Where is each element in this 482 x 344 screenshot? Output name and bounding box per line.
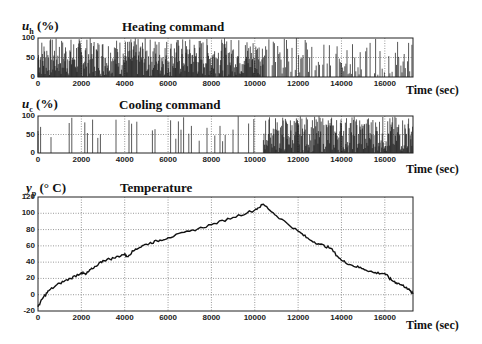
tick-label: 8000 <box>203 79 221 88</box>
tick-label: 14000 <box>330 313 352 322</box>
tick-label: 12000 <box>287 313 309 322</box>
tick-label: 16000 <box>374 155 396 164</box>
tick-label: 4000 <box>116 313 134 322</box>
tick-label: 100 <box>22 208 35 217</box>
tick-label: 10000 <box>244 79 266 88</box>
tick-label: 14000 <box>330 155 352 164</box>
tick-label: 2000 <box>72 155 90 164</box>
tick-label: 12000 <box>287 79 309 88</box>
plots-canvas <box>0 0 482 344</box>
tick-label: 0 <box>31 72 35 81</box>
tick-label: 6000 <box>159 313 177 322</box>
tick-label: 8000 <box>203 155 221 164</box>
figure: uh (%) Heating command uc (%) Cooling co… <box>0 0 482 344</box>
tick-label: 16000 <box>374 313 396 322</box>
tick-label: 2000 <box>72 313 90 322</box>
tick-label: 80 <box>26 225 35 234</box>
tick-label: 100 <box>22 33 35 42</box>
tick-label: 0 <box>36 79 40 88</box>
tick-label: 16000 <box>374 79 396 88</box>
tick-label: 8000 <box>203 313 221 322</box>
tick-label: 4000 <box>116 155 134 164</box>
tick-label: 0 <box>31 148 35 157</box>
tick-label: 10000 <box>244 155 266 164</box>
tick-label: 0 <box>36 313 40 322</box>
tick-label: 120 <box>22 192 35 201</box>
tick-label: 2000 <box>72 79 90 88</box>
tick-label: 60 <box>26 241 35 250</box>
tick-label: -20 <box>23 306 35 315</box>
tick-label: 10000 <box>244 313 266 322</box>
tick-label: 6000 <box>159 155 177 164</box>
tick-label: 0 <box>36 155 40 164</box>
tick-label: 20 <box>26 273 35 282</box>
tick-label: 50 <box>26 53 35 62</box>
tick-label: 40 <box>26 257 35 266</box>
tick-label: 4000 <box>116 79 134 88</box>
tick-label: 12000 <box>287 155 309 164</box>
tick-label: 50 <box>26 130 35 139</box>
tick-label: 100 <box>22 111 35 120</box>
tick-label: 0 <box>31 290 35 299</box>
tick-label: 14000 <box>330 79 352 88</box>
tick-label: 6000 <box>159 79 177 88</box>
